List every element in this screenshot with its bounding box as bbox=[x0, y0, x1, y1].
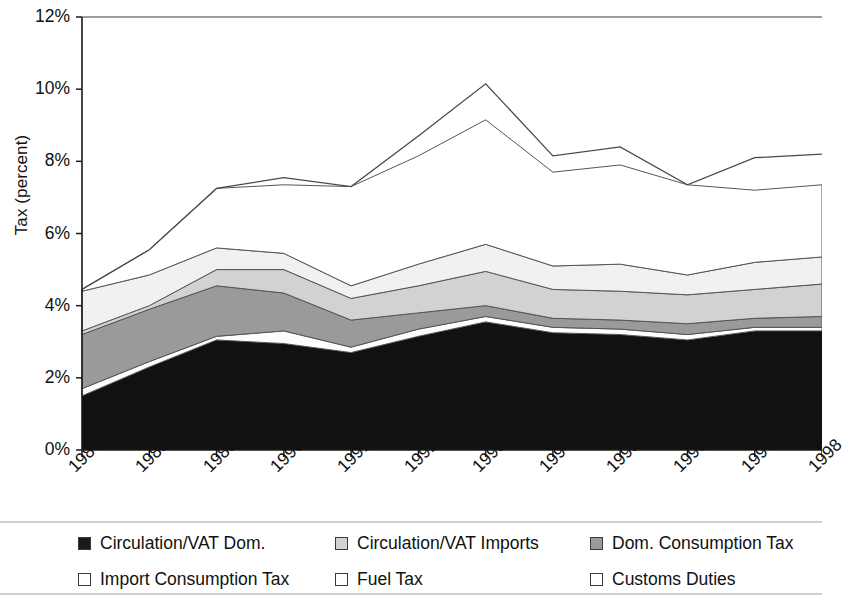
legend-swatch-icon bbox=[78, 537, 91, 550]
y-tick-label: 2% bbox=[12, 367, 70, 388]
legend-divider-top bbox=[0, 521, 822, 523]
legend-swatch-icon bbox=[590, 537, 603, 550]
chart-legend: Circulation/VAT Dom.Circulation/VAT Impo… bbox=[0, 525, 822, 594]
legend-swatch-icon bbox=[335, 573, 348, 586]
legend-item-label: Dom. Consumption Tax bbox=[612, 533, 794, 554]
y-tick-label: 12% bbox=[12, 6, 70, 27]
legend-item[interactable]: Circulation/VAT Imports bbox=[335, 533, 539, 554]
y-tick-label: 8% bbox=[12, 150, 70, 171]
legend-item-label: Fuel Tax bbox=[357, 569, 423, 590]
legend-swatch-icon bbox=[78, 573, 91, 586]
legend-item[interactable]: Dom. Consumption Tax bbox=[590, 533, 794, 554]
legend-swatch-icon bbox=[335, 537, 348, 550]
legend-item[interactable]: Circulation/VAT Dom. bbox=[78, 533, 265, 554]
legend-swatch-icon bbox=[590, 573, 603, 586]
legend-item-label: Circulation/VAT Dom. bbox=[100, 533, 265, 554]
y-tick-label: 4% bbox=[12, 295, 70, 316]
legend-item-label: Circulation/VAT Imports bbox=[357, 533, 539, 554]
legend-item[interactable]: Import Consumption Tax bbox=[78, 569, 289, 590]
legend-item-label: Import Consumption Tax bbox=[100, 569, 289, 590]
legend-item-label: Customs Duties bbox=[612, 569, 736, 590]
y-tick-label: 0% bbox=[12, 439, 70, 460]
y-tick-label: 10% bbox=[12, 78, 70, 99]
legend-item[interactable]: Customs Duties bbox=[590, 569, 736, 590]
legend-item[interactable]: Fuel Tax bbox=[335, 569, 423, 590]
y-tick-label: 6% bbox=[12, 223, 70, 244]
